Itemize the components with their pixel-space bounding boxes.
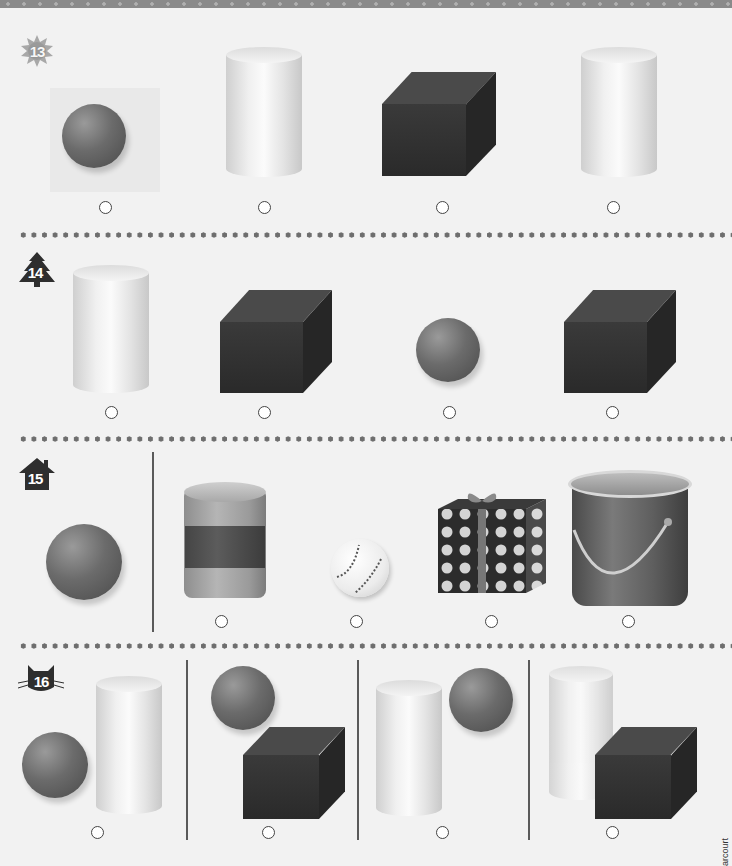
cube-shape [243, 727, 345, 819]
prompt-separator-line [152, 452, 154, 632]
tin-can-object [184, 482, 266, 598]
top-decorative-band [0, 0, 732, 8]
gift-box-object [438, 487, 546, 595]
sphere-shape [416, 318, 480, 382]
cylinder-shape [73, 265, 149, 393]
sphere-shape [62, 104, 126, 168]
section-divider [18, 436, 732, 442]
prompt-sphere-shape [22, 732, 88, 798]
problem-number: 16 [34, 673, 49, 690]
problem-13-badge: 13 [20, 34, 54, 68]
option-separator-line [528, 660, 530, 840]
problem-14-badge: 14 [18, 251, 52, 285]
cube-shape [382, 72, 496, 176]
problem-14-option-4-radio[interactable] [606, 406, 619, 419]
sphere-shape [449, 668, 513, 732]
problem-13-option-3-radio[interactable] [436, 201, 449, 214]
section-divider [18, 232, 732, 238]
prompt-cylinder-shape [96, 676, 162, 814]
problem-14-option-1-radio[interactable] [105, 406, 118, 419]
paint-bucket-object [568, 470, 692, 606]
problem-13-option-4-radio[interactable] [607, 201, 620, 214]
problem-13-option-1-radio[interactable] [99, 201, 112, 214]
option-separator-line [357, 660, 359, 840]
section-divider [18, 643, 732, 649]
problem-16-badge: 16 [18, 661, 64, 695]
problem-15-option-4-radio[interactable] [622, 615, 635, 628]
cylinder-shape [376, 680, 442, 816]
cylinder-shape [226, 47, 302, 177]
problem-14-option-3-radio[interactable] [443, 406, 456, 419]
problem-14-option-2-radio[interactable] [258, 406, 271, 419]
problem-16-option-3-radio[interactable] [436, 826, 449, 839]
problem-16-option-2-radio[interactable] [262, 826, 275, 839]
baseball-stitches-icon [331, 539, 389, 597]
problem-number: 14 [28, 264, 43, 281]
problem-15-badge: 15 [18, 457, 52, 491]
problem-15-option-2-radio[interactable] [350, 615, 363, 628]
gift-box-icon [438, 487, 546, 595]
baseball-object [331, 539, 389, 597]
problem-15-option-3-radio[interactable] [485, 615, 498, 628]
sphere-shape [211, 666, 275, 730]
cube-shape [220, 290, 332, 393]
problem-16-option-4-radio[interactable] [606, 826, 619, 839]
problem-15-option-1-radio[interactable] [215, 615, 228, 628]
option-separator-line [186, 660, 188, 840]
cube-shape [564, 290, 676, 393]
cube-shape [595, 727, 697, 819]
bucket-handle-icon [568, 470, 692, 606]
problem-13-option-2-radio[interactable] [258, 201, 271, 214]
prompt-sphere-shape [46, 524, 122, 600]
problem-number: 15 [28, 470, 43, 487]
problem-number: 13 [30, 43, 45, 60]
cylinder-shape [581, 47, 657, 177]
publisher-credit: arcourt [720, 838, 730, 866]
problem-16-option-1-radio[interactable] [91, 826, 104, 839]
